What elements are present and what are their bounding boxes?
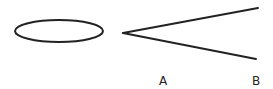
label-a: A [159,74,168,88]
lower-ray [123,33,256,59]
upper-ray [123,8,258,33]
diagram-canvas: A B [0,0,273,89]
ellipse-shape [15,20,103,42]
label-b: B [252,74,260,88]
angle-shape [123,8,258,59]
